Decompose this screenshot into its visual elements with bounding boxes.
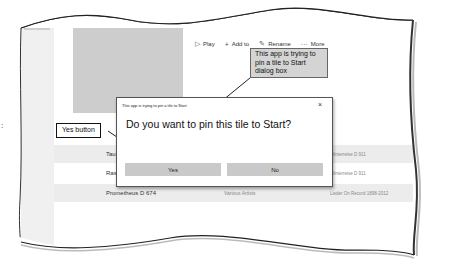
- callout-yes-button: Yes button: [56, 123, 101, 138]
- torn-paper-frame: 1 song in playlist • 7 min 59 sec ▷ Play…: [0, 0, 456, 269]
- pin-tile-dialog: This app is trying to pin a tile to Star…: [116, 97, 333, 187]
- callout-pin-dialog: This app is trying to pin a tile to Star…: [250, 48, 328, 78]
- dialog-question: Do you want to pin this tile to Start?: [126, 118, 291, 130]
- no-button[interactable]: No: [227, 163, 323, 176]
- margin-mark: :: [1, 121, 3, 130]
- dialog-title: This app is trying to pin a tile to Star…: [122, 103, 187, 108]
- yes-button[interactable]: Yes: [125, 163, 221, 176]
- close-icon[interactable]: ×: [318, 101, 322, 108]
